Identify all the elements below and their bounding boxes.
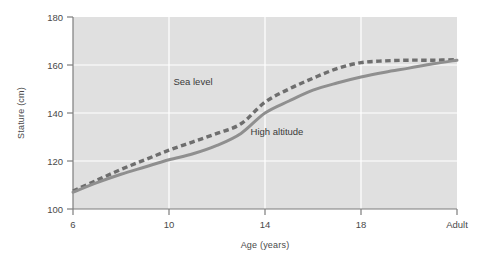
stature-vs-age-line-chart: 100120140160180 6101418Adult Sea level H… xyxy=(0,0,486,261)
x-tick-label-Adult: Adult xyxy=(446,219,468,230)
series-label-high-altitude: High altitude xyxy=(251,126,304,137)
x-tick-label-6: 6 xyxy=(70,219,75,230)
y-tick-label-120: 120 xyxy=(47,156,63,167)
x-axis-ticks xyxy=(73,209,457,215)
y-axis-title: Stature (cm) xyxy=(16,87,26,139)
y-tick-label-100: 100 xyxy=(47,204,63,215)
series-label-sea-level: Sea level xyxy=(173,76,212,87)
x-tick-label-10: 10 xyxy=(164,219,175,230)
y-axis-ticks xyxy=(67,17,73,209)
y-tick-label-160: 160 xyxy=(47,60,63,71)
x-tick-label-18: 18 xyxy=(356,219,367,230)
y-tick-label-140: 140 xyxy=(47,108,63,119)
x-tick-label-14: 14 xyxy=(260,219,271,230)
x-axis-tick-labels: 6101418Adult xyxy=(70,219,468,230)
growth-chart-figure: 100120140160180 6101418Adult Sea level H… xyxy=(0,0,486,261)
y-axis-tick-labels: 100120140160180 xyxy=(47,12,63,215)
y-tick-label-180: 180 xyxy=(47,12,63,23)
x-axis-title: Age (years) xyxy=(241,240,290,250)
